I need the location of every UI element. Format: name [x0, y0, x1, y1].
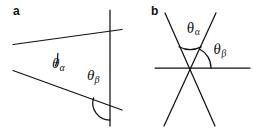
theta-glyph: θ — [213, 40, 221, 56]
panel-a-lower-line — [13, 71, 122, 111]
alpha-subscript-glyph: α — [194, 25, 200, 36]
beta-subscript-glyph: β — [221, 47, 227, 58]
panel-a-arc-beta — [93, 98, 110, 120]
panel-b-theta-alpha-label: θα — [186, 20, 200, 38]
panel-b-letter: b — [151, 5, 158, 17]
figure-canvas: a b θα θβ θα θβ — [0, 0, 253, 130]
panel-a-theta-beta-label: θβ — [87, 68, 100, 85]
panel-b-arc-alpha — [179, 47, 201, 50]
theta-glyph: θ — [186, 19, 195, 36]
panel-b-arc-beta — [199, 49, 211, 68]
panel-a-theta-alpha-label: θα — [52, 56, 65, 73]
panel-a-letter: a — [13, 5, 20, 17]
panel-b-theta-beta-label: θβ — [213, 41, 227, 59]
panel-a-linework — [13, 10, 122, 126]
figure-linework — [0, 0, 253, 130]
alpha-subscript-glyph: α — [60, 62, 65, 73]
panel-a-upper-line — [13, 30, 122, 45]
panel-b-linework — [155, 13, 250, 126]
theta-glyph: θ — [87, 67, 94, 83]
beta-subscript-glyph: β — [95, 74, 100, 85]
theta-glyph: θ — [52, 55, 59, 71]
